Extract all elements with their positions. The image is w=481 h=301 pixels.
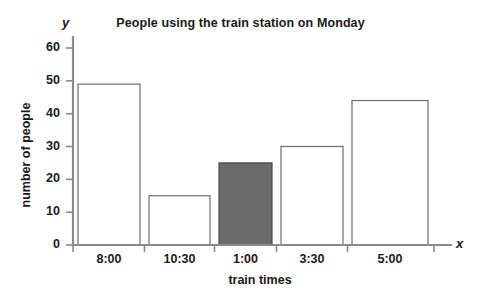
y-tick-label-10: 10 bbox=[26, 204, 60, 218]
y-tick-label-60: 60 bbox=[26, 40, 60, 54]
y-tick-label-20: 20 bbox=[26, 171, 60, 185]
bar-chart: People using the train station on Monday… bbox=[0, 0, 481, 301]
bar-10-30 bbox=[149, 196, 210, 245]
bar-8-00 bbox=[78, 84, 140, 245]
bar-5-00 bbox=[352, 101, 428, 245]
y-tick-label-30: 30 bbox=[26, 139, 60, 153]
bars-layer bbox=[78, 84, 428, 245]
bar-3-30 bbox=[281, 147, 343, 246]
bar-1-00 bbox=[219, 163, 272, 245]
y-tick-label-0: 0 bbox=[26, 237, 60, 251]
x-tick-label-5-00: 5:00 bbox=[322, 252, 458, 266]
y-tick-label-40: 40 bbox=[26, 106, 60, 120]
y-tick-label-50: 50 bbox=[26, 73, 60, 87]
